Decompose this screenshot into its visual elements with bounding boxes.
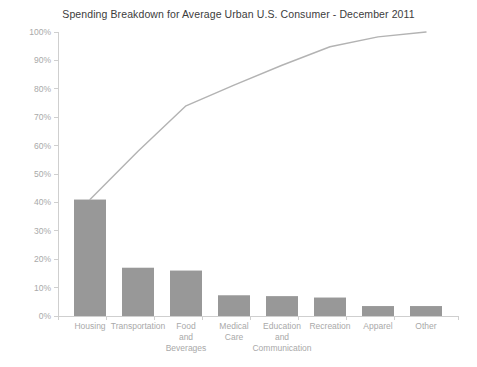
bar [266,296,298,316]
x-axis-category-label: FoodandBeverages [166,321,207,353]
cumulative-line [90,32,426,200]
y-axis-tick-label: 10% [34,283,51,293]
bar [362,306,394,316]
x-axis-category-label: Other [415,321,436,331]
chart-plot-area: 0%10%20%30%40%50%60%70%80%90%100% Housin… [0,0,477,367]
bar [218,295,250,316]
x-axis-category-label: MedicalCare [219,321,248,342]
x-axis-category-label: EducationandCommunication [252,321,311,353]
y-axis-tick-label: 40% [34,197,51,207]
x-axis-category-label: Recreation [309,321,350,331]
y-axis-tick-label: 70% [34,112,51,122]
bar [122,268,154,316]
bars-group [74,200,442,316]
y-axis-tick-label: 60% [34,141,51,151]
y-axis-tick-label: 30% [34,226,51,236]
y-axis-tick-label: 50% [34,169,51,179]
y-axis-tick-label: 0% [39,311,52,321]
y-axis-tick-label: 80% [34,84,51,94]
x-axis-category-label: Transportation [111,321,166,331]
bar [314,298,346,316]
cumulative-line-group [90,32,426,200]
y-axis-tick-label: 100% [29,27,51,37]
bar [74,200,106,316]
y-axis-tick-label: 90% [34,55,51,65]
pareto-chart: Spending Breakdown for Average Urban U.S… [0,0,477,367]
y-axis-tick-label: 20% [34,254,51,264]
x-axis-labels-group: HousingTransportationFoodandBeveragesMed… [58,316,458,353]
bar [170,271,202,316]
x-axis-category-label: Housing [74,321,105,331]
bar [410,306,442,316]
x-axis-category-label: Apparel [363,321,392,331]
